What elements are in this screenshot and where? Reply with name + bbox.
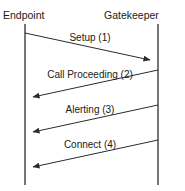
message-label-call-proceeding: Call Proceeding (2) — [47, 69, 133, 80]
message-alerting: Alerting (3) — [33, 104, 158, 132]
actor-label-endpoint: Endpoint — [3, 9, 45, 21]
message-label-setup: Setup (1) — [69, 32, 110, 43]
actor-label-gatekeeper: Gatekeeper — [104, 9, 159, 21]
sequence-diagram: Endpoint Gatekeeper Setup (1) Call Proce… — [0, 0, 185, 191]
message-label-alerting: Alerting (3) — [66, 104, 115, 115]
sequence-diagram-canvas: Endpoint Gatekeeper Setup (1) Call Proce… — [0, 0, 185, 191]
message-setup: Setup (1) — [25, 32, 150, 60]
message-connect: Connect (4) — [33, 139, 158, 167]
message-label-connect: Connect (4) — [64, 139, 116, 150]
message-call-proceeding: Call Proceeding (2) — [33, 69, 158, 97]
